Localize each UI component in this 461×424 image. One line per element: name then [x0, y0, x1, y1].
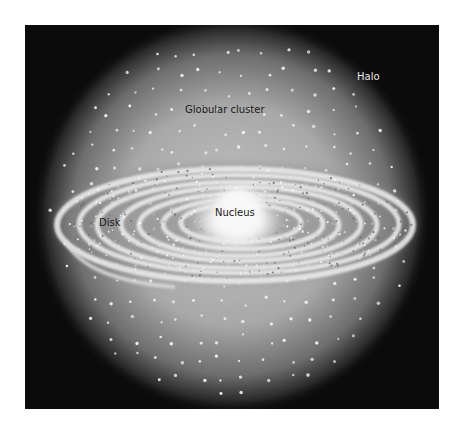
disk-star-speck: [130, 253, 132, 255]
disk-star-speck: [327, 245, 328, 246]
disk-star-speck: [183, 255, 184, 256]
disk-star-speck: [300, 219, 301, 220]
globular-cluster-dot: [307, 50, 310, 53]
disk-star-speck: [75, 209, 76, 210]
disk-star-speck: [398, 233, 399, 234]
globular-cluster-dot: [310, 358, 313, 361]
globular-cluster-dot: [372, 276, 375, 279]
disk-star-speck: [351, 231, 352, 232]
disk-star-speck: [359, 243, 360, 244]
disk-star-speck: [199, 185, 201, 187]
disk-star-speck: [124, 213, 126, 215]
disk-star-speck: [115, 240, 116, 241]
disk-star-speck: [216, 272, 217, 273]
globular-cluster-dot: [174, 374, 177, 377]
globular-cluster-dot: [170, 342, 173, 345]
globular-cluster-dot: [369, 162, 372, 165]
disk-star-speck: [119, 185, 120, 186]
globular-cluster-dot: [180, 89, 183, 92]
disk-star-speck: [312, 208, 314, 210]
disk-star-speck: [339, 233, 341, 235]
globular-cluster-dot: [181, 361, 185, 365]
disk-star-speck: [386, 201, 388, 203]
disk-star-speck: [341, 253, 342, 254]
disk-star-speck: [321, 238, 322, 239]
globular-cluster-dot: [204, 151, 207, 154]
disk-star-speck: [285, 219, 287, 221]
disk-star-speck: [111, 238, 112, 239]
disk-star-speck: [324, 204, 325, 205]
globular-cluster-dot: [332, 298, 335, 301]
globular-cluster-dot: [131, 315, 135, 319]
disk-star-speck: [333, 179, 335, 181]
globular-cluster-dot: [242, 131, 246, 135]
disk-star-speck: [323, 235, 324, 236]
disk-star-speck: [103, 213, 104, 214]
disk-star-speck: [163, 221, 164, 222]
disk-star-speck: [286, 225, 288, 227]
globular-cluster-dot: [315, 341, 318, 344]
disk-star-speck: [352, 250, 354, 252]
disk-star-speck: [292, 239, 294, 241]
disk-star-speck: [178, 206, 179, 207]
globular-cluster-dot: [199, 360, 202, 363]
globular-cluster-dot: [292, 361, 295, 364]
globular-cluster-dot: [333, 360, 336, 363]
disk-star-speck: [245, 264, 247, 266]
globular-cluster-dot: [131, 147, 134, 150]
globular-cluster-dot: [135, 342, 138, 345]
disk-star-speck: [94, 223, 95, 224]
disk-star-speck: [110, 199, 111, 200]
globular-cluster-dot: [170, 108, 173, 111]
disk-star-speck: [313, 211, 314, 212]
globular-cluster-dot: [292, 374, 295, 377]
disk-star-speck: [256, 254, 258, 256]
disk-star-speck: [203, 267, 205, 269]
globular-cluster-dot: [260, 52, 263, 55]
disk-star-speck: [329, 262, 331, 264]
disk-star-speck: [90, 190, 91, 191]
disk-star-speck: [331, 236, 332, 237]
disk-star-speck: [106, 255, 108, 257]
disk-star-speck: [364, 244, 366, 246]
globular-cluster-dot: [107, 322, 110, 325]
globular-cluster-dot: [289, 317, 292, 320]
disk-star-speck: [302, 192, 304, 194]
disk-star-speck: [206, 252, 207, 253]
disk-star-speck: [156, 249, 157, 250]
disk-star-speck: [342, 208, 344, 210]
disk-star-speck: [301, 252, 303, 254]
disk-star-speck: [322, 246, 324, 248]
disk-star-speck: [111, 190, 113, 192]
globular-cluster-dot: [158, 378, 161, 381]
disk-star-speck: [304, 245, 306, 247]
disk-star-speck: [90, 245, 92, 247]
disk-star-speck: [270, 195, 271, 196]
disk-star-speck: [144, 180, 146, 182]
disk-star-speck: [307, 193, 309, 195]
globular-cluster-dot: [352, 93, 355, 96]
disk-star-speck: [351, 210, 353, 212]
disk-star-speck: [273, 182, 275, 184]
globular-cluster-dot: [248, 92, 251, 95]
globular-cluster-dot: [109, 338, 112, 341]
disk-star-speck: [140, 257, 142, 259]
globular-cluster-dot: [193, 124, 196, 127]
disk-star-speck: [328, 255, 329, 256]
globular-cluster-dot: [270, 322, 273, 325]
disk-star-speck: [202, 191, 204, 193]
disk-star-speck: [307, 232, 309, 234]
disk-star-speck: [212, 174, 214, 176]
disk-star-speck: [355, 217, 356, 218]
globular-cluster-dot: [108, 93, 110, 95]
globular-cluster-dot: [112, 149, 115, 152]
disk-star-speck: [166, 236, 168, 238]
disk-star-speck: [108, 231, 110, 233]
globular-cluster-dot: [346, 163, 349, 166]
disk-star-speck: [348, 188, 350, 190]
disk-star-speck: [171, 212, 172, 213]
disk-star-speck: [327, 221, 329, 223]
globular-cluster-dot: [48, 208, 52, 212]
disk-star-speck: [96, 245, 98, 247]
disk-star-speck: [328, 238, 329, 239]
